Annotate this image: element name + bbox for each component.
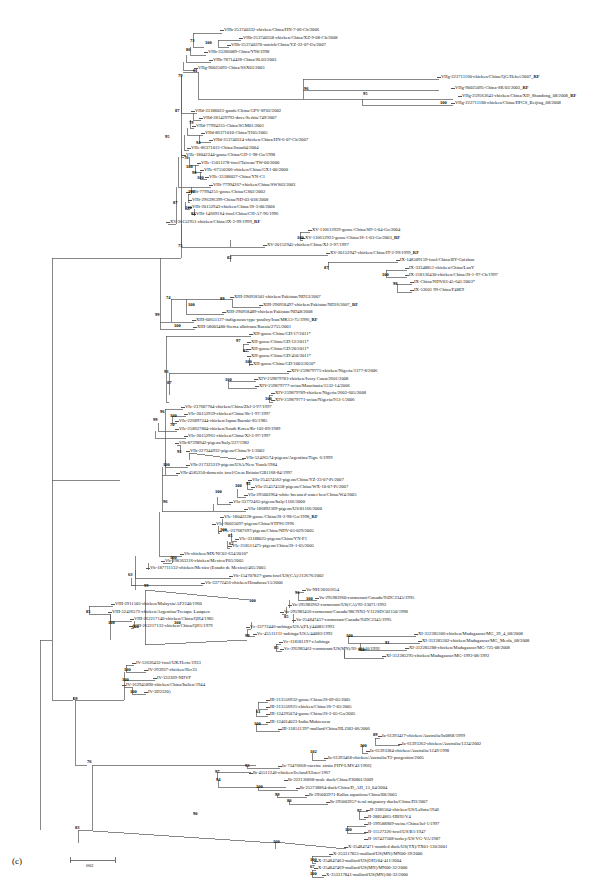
taxon-label: II-3386504-chicken/US/LaSota/1946 [370,808,439,813]
taxon-label: II-28824865-HB92/V4 [368,815,411,820]
bootstrap-value: 100 [170,414,177,419]
bootstrap-value: 100 [122,678,129,683]
taxon-label: Vc-118181197-rAnhinga [283,640,330,645]
taxon-label: VIIe-86371012-China/Jinan04/2004 [191,146,259,151]
taxon-label: VIIe-18042244-goose/China/GD-1-98-Go/199… [186,153,275,158]
bootstrap-value: 97 [215,770,220,775]
taxon-label: Vc-33772446-anhinga/USA(FL)/44083/1993 [250,625,334,630]
bootstrap-value: 69 [73,697,78,702]
scale-bar-label: 002 [86,863,94,868]
bootstrap-value: 100 [345,828,352,833]
taxon-label: VIIf-296396399-China/ND-03-018/2008 [192,198,268,203]
taxon-label: II-11527326-fowl/US/B1/1947 [368,830,426,835]
bootstrap-value: 102 [310,750,317,755]
taxon-label: Ia-61393427-chicken/Australia/Io0868/199… [382,734,465,739]
bootstrap-value: 98 [393,282,398,287]
bootstrap-value: 73 [190,39,195,44]
taxon-label: XIII-290918501-chicken/Pakistan/ND33/200… [234,295,321,300]
taxon-label: VIIg-90025093-China/SSX03/2003 [198,66,264,71]
taxon-label: VIe-33188025-pigeon/China/YN-P1 [239,537,307,542]
bootstrap-value: 97 [236,339,241,344]
bootstrap-value: 98 [192,171,197,176]
tree-backbone [145,590,249,600]
tree-backbone [145,640,247,645]
bootstrap-value: 96 [163,500,168,505]
bootstrap-value: 100 [188,190,195,195]
tree-branch-canvas [0,0,607,886]
bootstrap-value: 70 [184,156,189,161]
bootstrap-value: 67 [310,865,315,870]
bootstrap-value: 100 [254,722,261,727]
bootstrap-value: 92 [246,482,251,487]
bootstrap-value: 97 [357,809,362,814]
taxon-label: VIIg-90025095-China-SR/03/2003_RF [455,86,529,91]
bootstrap-value: 100 [310,858,317,863]
taxon-label: VIIg-259563643-chicken/China/XD_Shandong… [462,94,576,99]
bootstrap-value: 89 [373,733,378,738]
taxon-label: VIb-87298942-pigeon/Italy/227/1982 [179,441,249,446]
bootstrap-value: 100 [174,324,181,329]
bootstrap-value: 100 [256,785,263,790]
taxon-label: Ib-295003957-feral migratory ducks/China… [330,800,428,805]
bootstrap-value: 87 [175,109,180,114]
taxon-label: VIIf-77994267-chicken/China/SWS03/2003 [213,183,295,188]
taxon-label: XV-20152945-chicken/China/XJ-2-97/1997 [267,243,349,248]
bootstrap-value: 100 [265,397,272,402]
taxon-label: VIIb-253740332-chicken/China/HN-7-06-Ch/… [224,28,319,33]
taxon-label: VIb-52426574-pigeon/Argentina/Tigre 6/19… [246,456,332,461]
taxon-label: XIV-259879783-chicken/Ivory Coast/2601/2… [258,377,348,382]
tree-branch [275,842,346,849]
panel-label: (c) [12,856,22,866]
taxon-label: XI-312285302-chicken/Madagascar/MG_Meola… [422,639,529,644]
bootstrap-value: 100 [124,668,131,673]
bootstrap-value: 93 [164,370,169,375]
bootstrap-value: 61 [256,710,261,715]
bootstrap-value: 100 [440,101,447,106]
taxon-label: Va-295983960-cormorant/Canada/95DC2345/1… [319,596,414,601]
bootstrap-value: 99 [144,584,149,589]
tree-backbone [78,830,275,843]
bootstrap-value: 87 [243,349,248,354]
bootstrap-value: 100 [310,872,317,877]
bootstrap-value: 100 [360,744,367,749]
bootstrap-value: 93 [245,764,250,769]
taxon-label: VIa-254574558-pigeon/China/WX-10-07-Pi/2… [255,485,348,490]
taxon-label: Va-295983962-cormorant/US(CA)/92-23071/1… [292,603,386,608]
taxon-label: VIa-254574562-pigeon/China/YZ-23-07-Pi/2… [252,478,344,483]
bootstrap-value: 83 [75,826,80,831]
taxon-label: VIa-33772465-pigeon/Italy/1166/2000 [233,500,305,505]
taxon-label: IV-3D2320) [148,690,171,695]
taxon-label: VIa-295003964-white-breasted water hen/C… [248,493,356,498]
taxon-label: Va-254847457-cormorant/Canada/95DC2345/1… [296,618,391,623]
taxon-label: VIII-52426572-chicken/Argentina/Trenque … [112,610,210,615]
bootstrap-value: 99 [275,793,280,798]
taxon-label: VIIg-222711180-chicken/China/DFGS_Beijin… [455,101,561,106]
bootstrap-value: 100 [197,176,204,181]
bootstrap-value: 85 [228,534,233,539]
taxon-label: VIc-20152959-chicken/China/Sh-1-97/1997 [188,412,270,417]
taxon-label: XV-110612939-goose/China/SD-5-04-Go/2004 [312,228,400,233]
bootstrap-value: 100 [249,599,256,604]
bootstrap-value: 100 [358,648,365,653]
bootstrap-value: 63 [128,573,133,578]
taxon-label: XII-goose/China/GD/12/2011* [251,340,309,345]
taxon-label: XI-312285295-chicken/Madagascar/MG-1992-… [386,654,489,659]
taxon-label: X-253317855-mallard/US(MN)/MN00-39/2000 [333,852,422,857]
bootstrap-value: 100 [245,360,252,365]
bootstrap-value: 100 [174,621,181,626]
bootstrap-value: 100 [132,625,139,630]
taxon-label: VIII-262217133-chicken/China/QH1/1979 [133,624,213,629]
bootstrap-value: 100 [382,273,389,278]
taxon-label: Va-295983456-cormorant/Canada/98CNN3-V11… [284,610,408,615]
bootstrap-value: 79 [189,121,194,126]
bootstrap-value: 79 [178,74,183,79]
taxon-label: VIId-33188023-goode/China/GPV-SF02/2002 [195,109,281,114]
taxon-label: III-213556932-goose/China/JS-09-05/2005 [270,698,350,703]
taxon-label: VIIg-222711160-chicken/China/QG/Hebei/20… [441,75,540,80]
taxon-label: III-124014023-India/Mukteswar [270,720,330,725]
taxon-label: Ia-61393362-chicken/Australia/1334/2002 [402,742,481,747]
taxon-label: XV-20152947-chicken/China/IT-2-99/1999_R… [330,251,419,256]
taxon-label: IX-148509159-fowl/China/BY-Guizhou [400,258,474,263]
taxon-label: VIe-90025097-pigeon/China/STP96/1996 [216,522,294,527]
taxon-label: VIIf-77994251-goose/China/GS02/2002 [190,190,265,195]
